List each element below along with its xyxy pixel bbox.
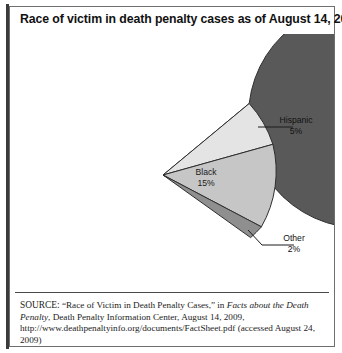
source-text-part-1: “Race of Victim in Death Penalty Cases,”…: [60, 300, 227, 310]
source-text-part-2: , Death Penalty Information Center, Augu…: [20, 312, 315, 345]
source-note: SOURCE: “Race of Victim in Death Penalty…: [20, 300, 326, 346]
pie-label-other-value: 2%: [272, 244, 316, 255]
source-divider: [15, 292, 329, 293]
pie-label-black-value: 15%: [178, 178, 234, 189]
pie-label-hispanic-name: Hispanic: [280, 115, 313, 125]
pie-label-black: Black 15%: [178, 167, 234, 189]
figure-container: Race of victim in death penalty cases as…: [0, 0, 342, 353]
pie-label-white-name: White: [101, 146, 123, 156]
pie-label-hispanic-value: 5%: [267, 126, 325, 137]
source-label: SOURCE:: [20, 300, 60, 310]
pie-label-white: White 78%: [84, 146, 140, 168]
pie-chart: White 78% Black 15% Hispanic 5% Other 2%: [10, 34, 334, 290]
pie-label-other: Other 2%: [272, 233, 316, 255]
figure-title: Race of victim in death penalty cases as…: [20, 12, 330, 26]
pie-label-hispanic: Hispanic 5%: [267, 115, 325, 137]
pie-label-other-name: Other: [283, 233, 305, 243]
pie-label-black-name: Black: [195, 167, 216, 177]
pie-label-white-value: 78%: [84, 157, 140, 168]
